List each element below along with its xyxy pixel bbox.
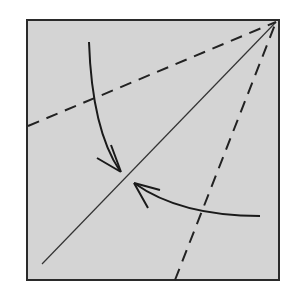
origami-diagram <box>0 0 301 300</box>
